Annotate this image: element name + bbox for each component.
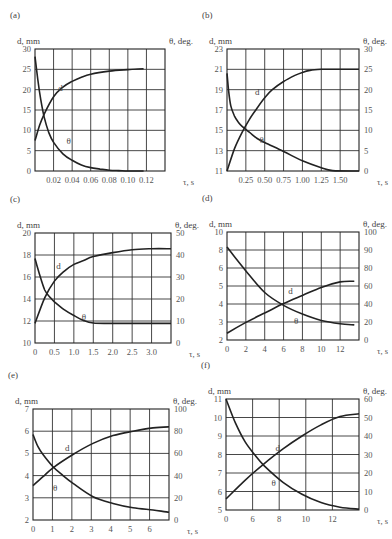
y-left-tick-label: 12	[23, 316, 32, 326]
panel-label: (a)	[10, 10, 20, 20]
x-axis-label: τ, s	[189, 349, 200, 359]
y-right-tick-label: 100	[364, 227, 377, 237]
y-right-tick-label: 15	[364, 105, 373, 115]
y-left-tick-label: 6	[218, 487, 222, 497]
figure-canvas: (a)d, mmθ, deg.τ, s0510152025300.020.040…	[0, 0, 392, 539]
y-right-tick-label: 40	[364, 299, 373, 309]
y-left-tick-label: 25	[23, 64, 32, 74]
chart-panel-f: (f)d, mmθ, deg.τ, s567891011010203040506…	[201, 360, 388, 526]
x-tick-label: 0.10	[120, 175, 135, 185]
x-tick-label: 0.04	[65, 175, 81, 185]
y-left-tick-label: 2	[25, 515, 29, 525]
x-tick-label: 1.00	[295, 175, 310, 185]
y-left-tick-label: 16	[23, 272, 32, 282]
y-left-tick-label: 15	[215, 125, 224, 135]
x-axis-label: τ, s	[187, 526, 198, 536]
curve-annotation: d	[275, 443, 280, 453]
x-tick-label: 6	[250, 514, 254, 524]
x-tick-label: 0	[31, 524, 35, 534]
x-tick-label: 3.0	[146, 347, 157, 357]
x-tick-label: 4	[263, 344, 268, 354]
x-tick-label: 1.0	[69, 347, 80, 357]
x-axis-label: τ, s	[377, 516, 388, 526]
y-right-tick-label: 90	[364, 245, 373, 255]
y-right-tick-label: 50	[176, 228, 185, 238]
y-left-tick-label: 5	[25, 448, 29, 458]
y-left-tick-label: 13	[215, 146, 224, 156]
x-tick-label: 0	[224, 514, 228, 524]
curve-annotation: θ	[82, 312, 86, 322]
x-tick-label: 8	[277, 514, 281, 524]
x-tick-label: 0	[33, 347, 37, 357]
y-left-tick-label: 7	[218, 468, 222, 478]
y-left-tick-label: 23	[215, 44, 224, 54]
y-left-tick-label: 6	[25, 426, 29, 436]
y-right-tick-label: 10	[364, 125, 373, 135]
y-left-tick-label: 30	[23, 44, 32, 54]
chart-panel-d: (d)d, mmθ, deg.τ, s234568100204060809010…	[202, 193, 388, 356]
x-tick-label: 2.5	[127, 347, 138, 357]
x-tick-label: 2.0	[107, 347, 118, 357]
panel-label: (f)	[201, 360, 210, 370]
y-right-tick-label: 100	[174, 404, 187, 414]
y-left-tick-label: 3	[25, 493, 29, 503]
x-tick-label: 0.12	[139, 175, 154, 185]
chart-panel-e: (e)d, mmθ, deg.τ, s234567020406080100012…	[8, 370, 198, 536]
panel-label: (d)	[202, 193, 213, 203]
y-right-tick-label: 40	[364, 431, 373, 441]
x-tick-label: 1.25	[314, 175, 329, 185]
y-left-tick-label: 18	[23, 250, 32, 260]
y-right-tick-label: 0	[174, 515, 178, 525]
x-tick-label: 0.02	[46, 175, 61, 185]
y-right-tick-label: 0	[364, 505, 368, 515]
curve-annotation: θ	[259, 135, 263, 145]
curve-annotation: d	[65, 443, 70, 453]
y-left-tick-label: 8	[219, 245, 223, 255]
x-tick-label: 0.50	[257, 175, 272, 185]
x-axis-label: τ, s	[377, 177, 388, 187]
y-right-axis-label: θ, deg.	[169, 36, 193, 46]
x-tick-label: 12	[328, 514, 337, 524]
y-left-tick-label: 21	[215, 64, 224, 74]
x-tick-label: 0.25	[238, 175, 253, 185]
chart-panel-c: (c)d, mmθ, deg.τ, s101214161820010203040…	[10, 194, 200, 359]
y-right-tick-label: 20	[364, 468, 373, 478]
curve-annotation: θ	[53, 483, 57, 493]
y-left-tick-label: 8	[218, 450, 222, 460]
chart-panel-a: (a)d, mmθ, deg.τ, s0510152025300.020.040…	[10, 10, 194, 187]
x-tick-label: 0.75	[276, 175, 291, 185]
series-d-curve	[33, 427, 169, 486]
y-left-tick-label: 6	[219, 263, 223, 273]
y-left-tick-label: 2	[219, 335, 223, 345]
series-d-curve	[35, 69, 144, 141]
y-right-tick-label: 0	[176, 338, 180, 348]
x-tick-label: 2	[70, 524, 74, 534]
y-right-tick-label: 20	[174, 493, 183, 503]
series-theta-curve	[33, 435, 169, 513]
x-tick-label: 5	[128, 524, 132, 534]
y-right-tick-label: 30	[176, 272, 185, 282]
series-d-curve	[35, 249, 171, 324]
y-right-tick-label: 0	[364, 166, 368, 176]
x-tick-label: 2	[244, 344, 248, 354]
y-right-tick-label: 25	[364, 64, 373, 74]
y-right-tick-label: 40	[176, 250, 185, 260]
y-right-tick-label: 60	[364, 281, 373, 291]
x-tick-label: 10	[302, 514, 311, 524]
x-axis-label: τ, s	[377, 346, 388, 356]
x-tick-label: 3	[89, 524, 93, 534]
y-left-tick-label: 14	[23, 294, 32, 304]
curve-annotation: d	[56, 261, 61, 271]
y-right-tick-label: 20	[364, 317, 373, 327]
y-right-tick-label: 20	[176, 294, 185, 304]
x-tick-label: 8	[300, 344, 304, 354]
y-right-tick-label: 60	[174, 448, 183, 458]
y-right-tick-label: 30	[364, 450, 373, 460]
y-right-tick-label: 0	[364, 335, 368, 345]
y-left-tick-label: 11	[214, 394, 222, 404]
plot-frame	[33, 409, 169, 520]
y-left-tick-label: 7	[25, 404, 29, 414]
y-right-tick-label: 10	[364, 487, 373, 497]
x-tick-label: 10	[317, 344, 326, 354]
y-left-tick-label: 10	[23, 338, 32, 348]
